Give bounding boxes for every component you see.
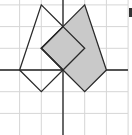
- coordinate-diagram: [0, 0, 132, 135]
- shaded-reflected-figure: [41, 5, 106, 92]
- cropped-label-mark: [129, 8, 132, 17]
